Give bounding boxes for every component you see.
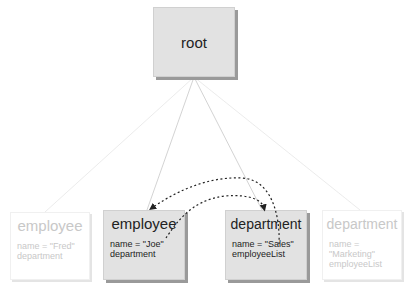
reference-joe-to-sales: [166, 196, 264, 238]
reference-sales-to-joe: [152, 178, 279, 244]
reference-arrows: [0, 0, 414, 293]
